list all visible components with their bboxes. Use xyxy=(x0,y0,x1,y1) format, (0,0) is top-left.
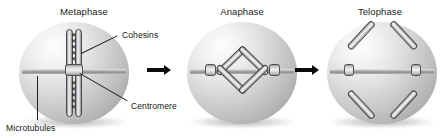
centromere-right-telophase xyxy=(411,64,421,76)
leader-line-microtubules xyxy=(37,76,38,120)
callout-cohesins: Cohesins xyxy=(122,30,158,40)
panel-title-metaphase: Metaphase xyxy=(34,6,134,17)
centromere-right-anaphase xyxy=(269,64,280,76)
panel-title-telophase: Telophase xyxy=(330,6,430,17)
callout-microtubules: Microtubules xyxy=(6,123,55,133)
callout-centromere: Centromere xyxy=(131,101,177,111)
centromere-left-telophase xyxy=(344,64,354,76)
cohesin-link: ✕ xyxy=(71,56,76,62)
mitosis-figure: Metaphase ✕ ✕ ✕ ✕ ✕ ✕ ✕ ✕ ✕ ✕ Cohesins C… xyxy=(0,0,441,138)
panel-title-anaphase: Anaphase xyxy=(192,6,292,17)
cohesin-link: ✕ xyxy=(71,104,76,110)
centromere-left-anaphase xyxy=(205,64,216,76)
